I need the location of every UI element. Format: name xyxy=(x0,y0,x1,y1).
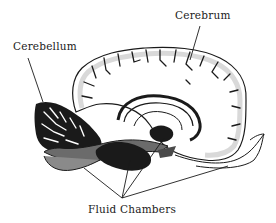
brain-diagram xyxy=(0,0,276,223)
fluid-leader-line-1 xyxy=(84,168,122,198)
fluid-chambers-label: Fluid Chambers xyxy=(88,203,176,215)
cerebellum-label: Cerebellum xyxy=(13,40,77,52)
cerebellum-leader-line xyxy=(28,58,43,102)
cerebrum-label: Cerebrum xyxy=(175,9,231,21)
fluid-leader-line-4 xyxy=(122,166,228,198)
